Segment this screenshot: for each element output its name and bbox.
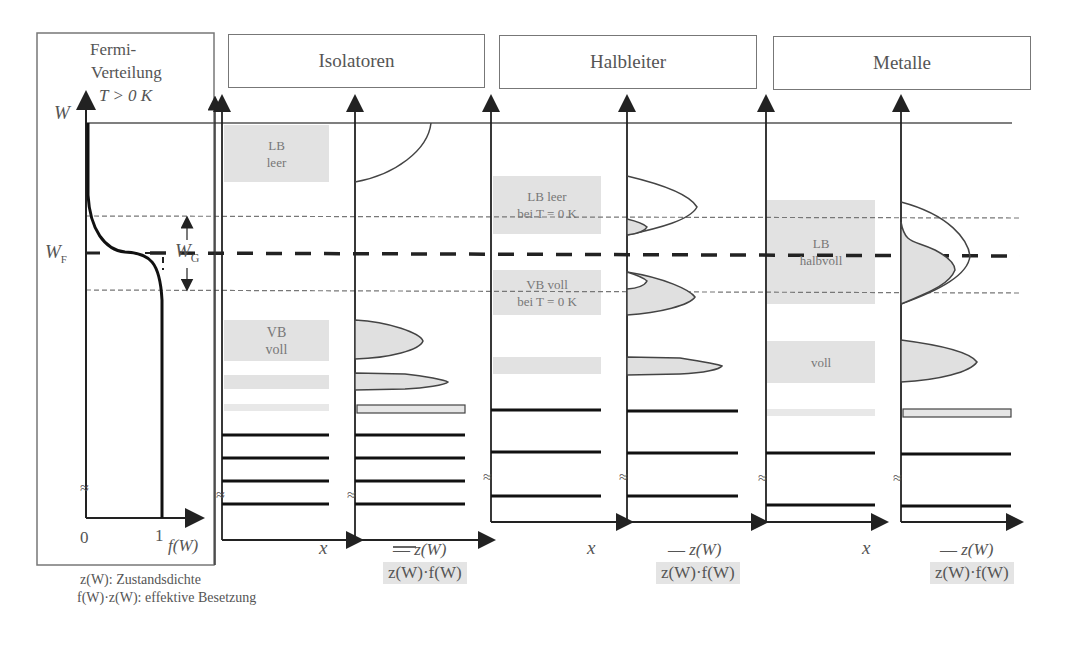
band-label-halbleiter-vb: VB voll bei T = 0 K xyxy=(493,270,601,315)
band-label-metalle-voll: voll xyxy=(767,341,875,383)
band-label-halbleiter-lb: LB leer bei T = 0 K xyxy=(493,176,601,234)
legend-line-sample: — xyxy=(393,540,410,559)
fermi-x-axis-label: f(W) xyxy=(168,536,198,556)
energy-axis-label: W xyxy=(54,102,70,124)
break-mark-halbleiter-x: ≈ xyxy=(483,468,492,486)
break-mark-fermi: ≈ xyxy=(80,479,89,497)
footnote-line1: z(W): Zustandsdichte xyxy=(80,572,201,588)
fermi-title-line1: Fermi- xyxy=(90,40,136,60)
break-mark-halbleiter-z: ≈ xyxy=(619,468,628,486)
legend-line-sample: — xyxy=(940,540,957,559)
fermi-level-label: WF xyxy=(45,241,67,265)
x-axis-label-isolatoren: x xyxy=(319,537,327,559)
legend-line-sample: — xyxy=(668,540,685,559)
legend-occupation-isolatoren: z(W)·f(W) xyxy=(383,562,467,584)
band-model-diagram: Fermi- Verteilung T > 0 K W WF WG ≈ 0 1 … xyxy=(0,0,1065,653)
break-mark-metalle-x: ≈ xyxy=(758,469,767,487)
break-mark-isolatoren-z: ≈ xyxy=(347,486,356,504)
band-label-metalle-lb: LB halbvoll xyxy=(767,200,875,304)
x-axis-label-metalle: x xyxy=(862,537,870,559)
break-mark-isolatoren-x: ≈ xyxy=(216,486,225,504)
footnote-line2: f(W)·z(W): effektive Besetzung xyxy=(77,590,256,606)
fermi-title-line2: Verteilung xyxy=(91,63,162,83)
band-label-isolatoren-lb: LB leer xyxy=(224,130,329,178)
section-header-halbleiter: Halbleiter xyxy=(499,35,757,89)
x-axis-label-halbleiter: x xyxy=(587,537,595,559)
diagram-graphics xyxy=(0,0,1065,653)
legend-dos-metalle: — z(W) xyxy=(940,540,993,560)
band-label-isolatoren-vb: VB voll xyxy=(224,320,329,361)
break-mark-metalle-z: ≈ xyxy=(893,469,902,487)
x-tick-1: 1 xyxy=(155,526,164,546)
legend-dos-isolatoren: — z(W) xyxy=(393,540,446,560)
section-header-isolatoren: Isolatoren xyxy=(228,34,485,88)
legend-occupation-halbleiter: z(W)·f(W) xyxy=(656,562,740,584)
x-tick-0: 0 xyxy=(80,528,89,548)
section-header-metalle: Metalle xyxy=(773,36,1031,90)
legend-dos-halbleiter: — z(W) xyxy=(668,540,721,560)
legend-occupation-metalle: z(W)·f(W) xyxy=(930,562,1014,584)
temperature-label: T > 0 K xyxy=(99,86,152,106)
band-gap-label: WG xyxy=(175,240,200,266)
